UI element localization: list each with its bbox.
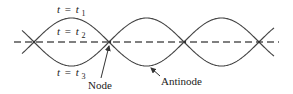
node-point (258, 41, 260, 43)
label-t2: t = t 2 (57, 25, 86, 40)
node-arrow (101, 46, 109, 78)
antinode-arrow (151, 68, 160, 76)
node-point (109, 41, 111, 43)
label-t3: t = t 3 (57, 66, 86, 81)
node-point (184, 41, 186, 43)
node-label: Node (88, 79, 112, 91)
node-point (33, 41, 35, 43)
antinode-label: Antinode (161, 75, 202, 87)
standing-wave-diagram: t = t 1 t = t 2 t = t 3 Node Antinode (0, 0, 293, 94)
label-t1: t = t 1 (57, 3, 86, 18)
